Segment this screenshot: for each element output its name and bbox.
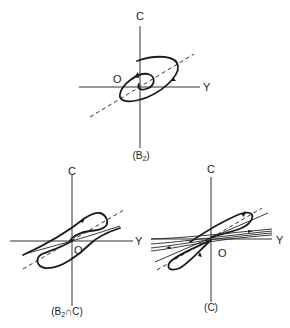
- y-axis-label: Y: [276, 234, 284, 246]
- c-axis-label: C: [68, 165, 76, 177]
- origin-label: O: [74, 244, 83, 256]
- figure-caption: (B2): [132, 150, 149, 162]
- origin-label: O: [113, 73, 122, 85]
- figure-caption: (B2∩C): [51, 306, 83, 318]
- arrow-icon: [134, 72, 139, 78]
- phase-diagrams: C Y O (B2) C Y O (B2∩C): [0, 0, 290, 328]
- figure-c: C Y O (C): [151, 163, 284, 313]
- origin-label: O: [218, 247, 227, 259]
- figure-b2-intersect-c: C Y O (B2∩C): [10, 165, 143, 318]
- y-axis-label: Y: [135, 235, 143, 247]
- figure-caption: (C): [204, 302, 218, 313]
- spiral-trajectory: [120, 57, 178, 102]
- dashed-trajectory-line: [90, 54, 194, 117]
- c-axis-label: C: [207, 163, 215, 175]
- c-axis-label: C: [136, 10, 144, 22]
- arrow-icon: [241, 211, 246, 217]
- figure-b2: C Y O (B2): [79, 10, 211, 162]
- arrow-icon: [248, 230, 253, 233]
- y-axis-label: Y: [203, 81, 211, 93]
- lower-loop-trajectory: [168, 240, 211, 270]
